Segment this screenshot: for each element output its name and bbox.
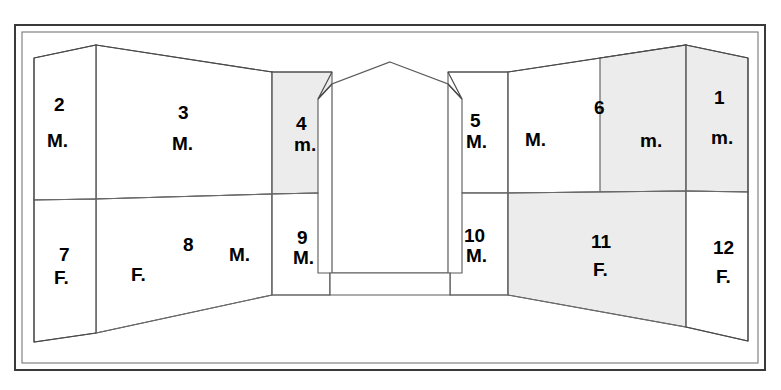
panel-8-number: 8 <box>183 235 194 255</box>
panel-6-number: 6 <box>594 98 605 118</box>
panel-12-number: 12 <box>713 238 734 258</box>
panel-6-sex: M. <box>525 130 546 150</box>
panel-7-number: 7 <box>59 245 70 265</box>
panel-9-sex: M. <box>293 248 314 268</box>
panel-10-sex: M. <box>466 246 487 266</box>
panel-2-sex: M. <box>47 131 68 151</box>
panel-9-number: 9 <box>297 228 308 248</box>
panel-5-number: 5 <box>470 111 481 131</box>
panel-11-sex: F. <box>593 260 608 280</box>
panel-6-shaded-region <box>600 45 686 192</box>
panel-3-sex: M. <box>172 134 193 154</box>
panel-3-number: 3 <box>178 103 189 123</box>
panel-1-sex: m. <box>711 128 733 148</box>
arched-niche[interactable] <box>332 62 448 273</box>
niche-plinth <box>330 273 450 295</box>
panel-6-sex-alt: m. <box>640 131 662 151</box>
panel-7-sex: F. <box>54 268 69 288</box>
panel-2-number: 2 <box>54 95 65 115</box>
panel-1-number: 1 <box>714 88 725 108</box>
panel-5-sex: M. <box>466 132 487 152</box>
panel-10-number: 10 <box>464 226 485 246</box>
panel-4-number: 4 <box>296 114 307 134</box>
panel-1-face[interactable] <box>686 45 748 192</box>
panel-4-sex: m. <box>294 135 316 155</box>
panel-11-number: 11 <box>591 232 611 252</box>
scene-drawing <box>0 0 781 390</box>
diagram-root: 2 M. 3 M. 4 m. 5 M. 6 M. m. 1 m. 7 F. 8 … <box>0 0 781 390</box>
panel-12-sex: F. <box>716 267 731 287</box>
panel-8-sex-alt: M. <box>229 245 250 265</box>
panel-8-sex: F. <box>131 265 146 285</box>
panel-2-face[interactable] <box>34 45 96 200</box>
